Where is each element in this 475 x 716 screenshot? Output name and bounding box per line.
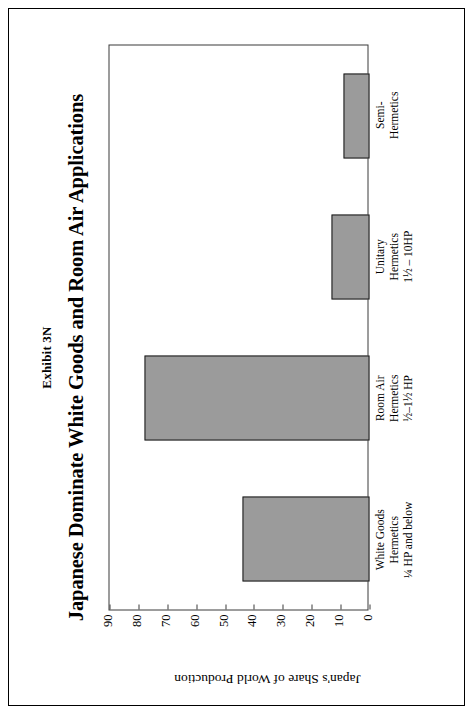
category-label-line: 1½ – 10HP [400, 188, 414, 326]
exhibit: Exhibit 3N Japanese Dominate White Goods… [8, 8, 465, 706]
category-label: White GoodsHermetics¼ HP and below [372, 469, 414, 611]
page-border: Exhibit 3N Japanese Dominate White Goods… [8, 8, 465, 706]
category-label-line: White Goods [372, 471, 386, 609]
bar-slot [109, 468, 369, 609]
y-axis-tick-label: 20 [303, 614, 318, 627]
category-label: Semi-Hermetics [372, 44, 414, 186]
bar-slot [109, 45, 369, 186]
bar-chart: Japan's Share of World Production 010203… [108, 44, 426, 610]
exhibit-number: Exhibit 3N [38, 8, 54, 706]
category-label-line: Hermetics [386, 471, 400, 609]
bar[interactable] [242, 496, 369, 581]
category-label-line: Hermetics [386, 188, 400, 326]
category-label-line: Unitary [372, 188, 386, 326]
category-label: Room AirHermetics½–1½ HP [372, 327, 414, 469]
category-label-line: ½–1½ HP [400, 329, 414, 467]
page-title: Japanese Dominate White Goods and Room A… [64, 8, 87, 706]
bar-slot [109, 186, 369, 327]
category-label-line: Hermetics [386, 329, 400, 467]
x-axis-category-labels: White GoodsHermetics¼ HP and belowRoom A… [372, 44, 414, 610]
y-axis-tick-label: 80 [129, 614, 144, 627]
bar[interactable] [144, 355, 369, 440]
bar[interactable] [331, 214, 369, 299]
y-axis-tick-label: 50 [216, 614, 231, 627]
category-label-line: ¼ HP and below [400, 471, 414, 609]
y-axis-tick-label: 30 [274, 614, 289, 627]
y-axis-tick-label: 40 [245, 614, 260, 627]
y-axis-tick-label: 70 [158, 614, 173, 627]
y-axis-tick-labels: 0102030405060708090 [108, 614, 368, 638]
bar[interactable] [343, 73, 369, 158]
category-label-line: Room Air [372, 329, 386, 467]
y-axis-tick-label: 90 [101, 614, 116, 627]
y-axis-tick-label: 10 [332, 614, 347, 627]
y-axis-title: Japan's Share of World Production [108, 664, 426, 686]
y-axis-tick-label: 0 [361, 614, 376, 620]
category-label-line: Hermetics [386, 46, 400, 184]
rotated-exhibit-stage: Exhibit 3N Japanese Dominate White Goods… [8, 8, 465, 706]
y-axis-tick-label: 60 [187, 614, 202, 627]
category-label: UnitaryHermetics1½ – 10HP [372, 186, 414, 328]
category-label-line: Semi- [372, 46, 386, 184]
bar-slot [109, 327, 369, 468]
bar-series [109, 45, 369, 609]
plot-area [108, 44, 368, 610]
